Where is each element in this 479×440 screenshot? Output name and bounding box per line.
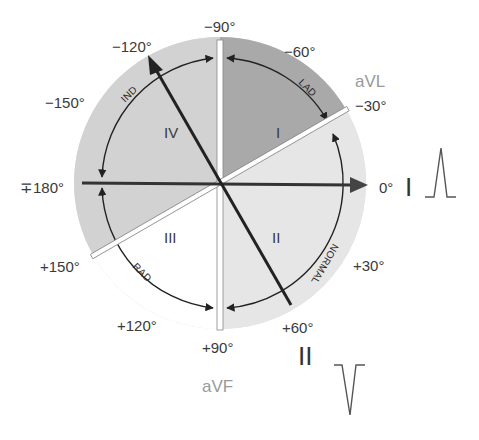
quadrant-II-label: II — [272, 229, 280, 246]
lead-label-avl: aVL — [355, 72, 385, 91]
quadrant-II-sector — [220, 183, 366, 329]
angle-label-plus120: +120° — [117, 317, 157, 334]
angle-label-minus90: −90° — [204, 18, 235, 35]
quadrant-I-label: I — [276, 124, 280, 141]
lead-I-positive-waveform-icon — [425, 148, 456, 197]
lead-label-avf: aVF — [202, 377, 233, 396]
angle-label-plus30: +30° — [353, 257, 384, 274]
lead-II-negative-waveform-icon — [334, 365, 365, 415]
angle-label-plus150: +150° — [40, 258, 80, 275]
angle-label-zero: 0° — [379, 179, 393, 196]
angle-label-plus90: +90° — [202, 339, 233, 356]
angle-label-minus30: −30° — [355, 97, 386, 114]
angle-label-minus150: −150° — [45, 94, 85, 111]
angle-label-pm180: ∓180° — [20, 179, 64, 196]
angle-label-minus60: −60° — [284, 43, 315, 60]
lead-I-axis-line — [82, 183, 352, 185]
angle-label-minus120: −120° — [112, 38, 152, 55]
lead-label-II: II — [298, 341, 312, 371]
quadrant-IV-label: IV — [164, 124, 178, 141]
quadrant-III-label: III — [164, 229, 177, 246]
lead-label-I: I — [405, 172, 412, 202]
angle-label-plus60: +60° — [282, 319, 313, 336]
axis-diagram: LAD IND RAD NORMAL I II III IV −90° −60°… — [0, 0, 479, 440]
